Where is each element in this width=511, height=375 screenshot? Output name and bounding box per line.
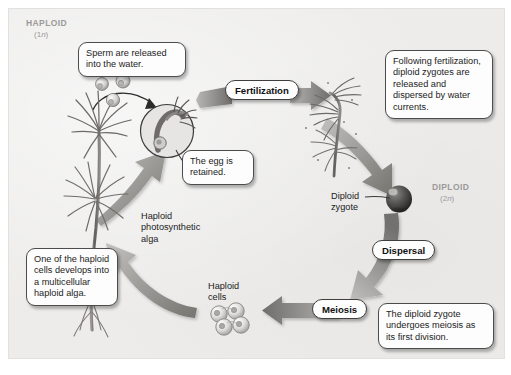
callout-zygote-meiosis: The diploid zygote undergoes meiosis as … [378,303,494,349]
label-haploid-alga-line3: alga [141,234,221,245]
label-haploid-cells: Haploid cells [208,281,268,304]
label-diploid-zygote-line2: zygote [331,202,373,213]
ploidy-haploid-sub: (1n) [34,29,67,40]
stage-label-meiosis: Meiosis [312,299,367,319]
callout-egg-retained: The egg is retained. [182,150,254,185]
label-haploid-alga-line1: Haploid [141,211,221,222]
ploidy-haploid-title: HAPLOID [26,18,67,28]
ploidy-diploid-sub: (2n) [440,193,469,204]
label-diploid-zygote: Diploid zygote [331,191,373,214]
diagram-canvas: HAPLOID (1n) DIPLOID (2n) Sperm are rele… [0,0,511,375]
callout-following-fertilization: Following fertilization, diploid zygotes… [385,50,493,119]
callout-sperm-released: Sperm are released into the water. [78,42,186,77]
label-haploid-cells-line2: cells [208,292,268,303]
label-diploid-zygote-line1: Diploid [331,191,373,202]
ploidy-label-haploid: HAPLOID (1n) [26,18,67,40]
ploidy-diploid-title: DIPLOID [432,182,469,192]
stage-label-fertilization: Fertilization [225,80,299,100]
callout-one-haploid-cell: One of the haploid cells develops into a… [26,248,118,306]
stage-label-dispersal: Dispersal [372,240,435,260]
label-haploid-cells-line1: Haploid [208,281,268,292]
ploidy-label-diploid: DIPLOID (2n) [432,182,469,204]
label-haploid-alga-line2: photosynthetic [141,222,221,233]
label-haploid-alga: Haploid photosynthetic alga [141,211,221,245]
